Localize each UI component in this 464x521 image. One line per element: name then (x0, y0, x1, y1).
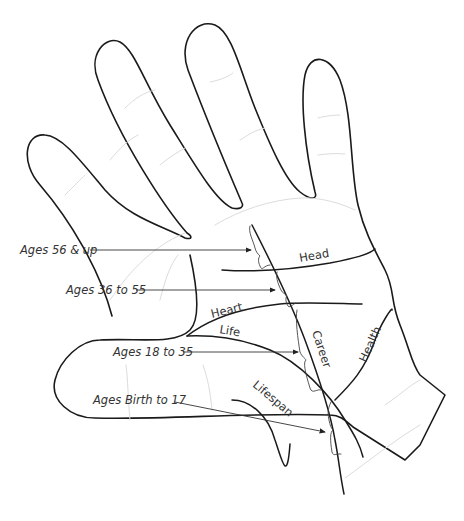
palm-diagram: Head Heart Life Career Health Lifespan A… (0, 0, 464, 521)
hand-outline (27, 24, 445, 460)
age-label-18-35: Ages 18 to 35 (112, 345, 193, 359)
label-heart: Heart (209, 299, 244, 320)
label-health: Health (356, 324, 384, 364)
age-label-36-55: Ages 36 to 55 (65, 283, 146, 297)
age-label-56-up: Ages 56 & up (19, 243, 97, 257)
label-head: Head (298, 246, 330, 265)
age-label-birth-17: Ages Birth to 17 (92, 393, 187, 407)
label-lifespan: Lifespan (250, 378, 296, 420)
skin-creases (65, 73, 420, 478)
